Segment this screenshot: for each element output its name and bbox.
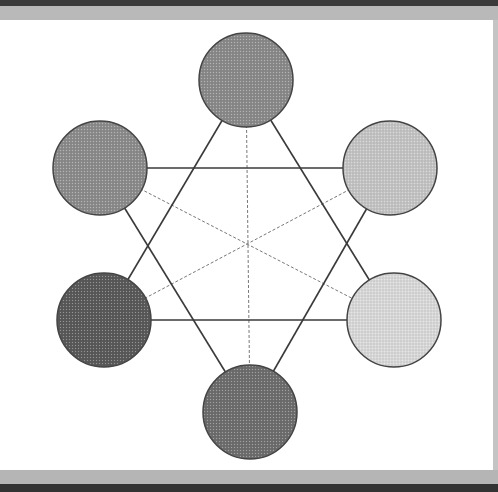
dashed-edge-top-bottom: [246, 80, 250, 412]
node-texture: [200, 34, 292, 126]
solid-edges: [100, 80, 394, 412]
node-texture: [204, 366, 296, 458]
node-lower-left: [57, 273, 151, 367]
nodes: [53, 33, 441, 459]
node-bottom: [203, 365, 297, 459]
node-upper-left: [53, 121, 147, 215]
node-texture: [54, 122, 146, 214]
dashed-edges: [100, 80, 394, 412]
node-upper-right: [343, 121, 437, 215]
node-lower-right: [347, 273, 441, 367]
node-texture: [58, 274, 150, 366]
node-top: [199, 33, 293, 127]
hexagram-diagram: [0, 0, 498, 492]
node-texture: [348, 274, 440, 366]
node-texture: [344, 122, 436, 214]
